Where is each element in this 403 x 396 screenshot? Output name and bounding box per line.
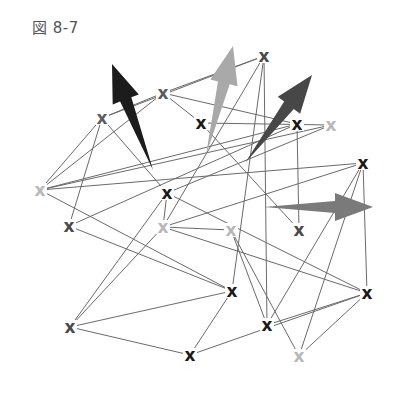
edge-n5-n8: [40, 124, 297, 190]
edge-n7-n11: [163, 163, 363, 227]
node-n7-x-marker: x: [358, 153, 369, 173]
node-n1-x-marker: x: [259, 46, 270, 66]
arrow-gray-icon: [264, 193, 373, 221]
node-n6-x-marker: x: [326, 115, 337, 135]
node-n19-x-marker: x: [294, 346, 305, 366]
edge-n14-n16: [70, 291, 232, 327]
edge-n11-n16: [70, 227, 163, 327]
edge-n7-n19: [299, 163, 363, 356]
node-n13-x-marker: x: [294, 220, 305, 240]
edge-n4-n6: [201, 123, 331, 125]
edge-n8-n6: [40, 125, 331, 190]
node-n11-x-marker: x: [158, 217, 169, 237]
node-n18-x-marker: x: [185, 345, 196, 365]
node-n4-x-marker: x: [196, 113, 207, 133]
edge-n3-n8: [40, 118, 102, 190]
edge-n18-n15: [190, 293, 367, 355]
node-n5-x-marker: x: [292, 114, 303, 134]
edge-n11-n15: [163, 227, 367, 293]
node-n12-x-marker: x: [226, 220, 237, 240]
node-n10-x-marker: x: [64, 216, 75, 236]
node-n17-x-marker: x: [262, 315, 273, 335]
edge-n11-n12: [163, 227, 231, 230]
node-n16-x-marker: x: [65, 317, 76, 337]
node-n14-x-marker: x: [227, 281, 238, 301]
arrow-black-icon: [112, 64, 153, 170]
edge-n7-n17: [267, 163, 363, 325]
edge-n3-n10: [69, 118, 102, 226]
edge-n16-n18: [70, 327, 190, 355]
edge-n5-n13: [297, 124, 299, 230]
node-n9-x-marker: x: [162, 183, 173, 203]
network-diagram: xxxxxxxxxxxxxxxxxxx: [0, 0, 403, 396]
edge-n1-n17: [264, 56, 267, 325]
edge-n13-n4: [201, 123, 299, 230]
node-n15-x-marker: x: [362, 283, 373, 303]
edge-n10-n14: [69, 226, 232, 291]
arrow-light-icon: [206, 46, 238, 155]
edge-n7-n15: [363, 163, 367, 293]
node-n8-x-marker: x: [35, 180, 46, 200]
edge-n12-n17: [231, 230, 267, 325]
node-n2-x-marker: x: [158, 83, 169, 103]
edge-n6-n9: [167, 125, 331, 193]
node-n3-x-marker: x: [97, 108, 108, 128]
edge-n1-n11: [163, 56, 264, 227]
